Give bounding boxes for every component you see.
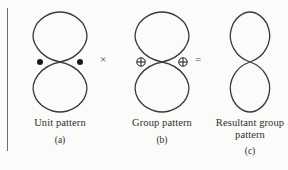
left-vertical-rule: [7, 8, 8, 151]
panel-caption-line2: pattern: [235, 129, 265, 140]
panel-caption: Unit pattern: [18, 117, 102, 129]
figure-eight-pattern-a: [22, 10, 98, 114]
figure-eight-pattern-c: [219, 10, 281, 114]
lemniscate-outline: [230, 12, 269, 112]
pattern-multiplication-figure: Unit pattern (a) × Group pattern (b) =: [0, 0, 288, 170]
panel-caption-line1: Resultant group: [216, 117, 284, 128]
panel-sublabel: (c): [212, 146, 288, 157]
filled-dot-right: [77, 59, 83, 65]
figure-eight-pattern-b: [124, 10, 200, 114]
panel-unit-pattern: Unit pattern (a): [18, 0, 102, 170]
panel-caption: Resultant group pattern: [212, 117, 288, 141]
circled-plus-right: [179, 58, 187, 66]
multiply-operator: ×: [95, 53, 111, 65]
panel-sublabel: (a): [18, 135, 102, 146]
filled-dot-left: [37, 59, 43, 65]
panel-caption: Group pattern: [120, 117, 204, 129]
panel-resultant-group-pattern: Resultant group pattern (c): [212, 0, 288, 170]
circled-plus-left: [137, 58, 145, 66]
panel-group-pattern: Group pattern (b): [120, 0, 204, 170]
panel-sublabel: (b): [120, 135, 204, 146]
equals-operator: =: [190, 53, 206, 65]
